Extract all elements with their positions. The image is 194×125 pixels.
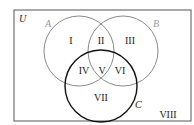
set-label-b: B — [153, 18, 159, 29]
set-label-a: A — [44, 18, 52, 29]
region-8-label: VIII — [159, 109, 176, 120]
region-3-label: III — [125, 35, 135, 46]
universe-label: U — [19, 13, 27, 24]
region-2-label: II — [98, 35, 105, 46]
region-6-label: VI — [115, 65, 126, 76]
region-5-label: V — [98, 65, 106, 76]
venn-diagram: U A B C I II III IV V VI VII VIII — [0, 0, 194, 125]
region-1-label: I — [69, 35, 72, 46]
region-7-label: VII — [94, 92, 108, 103]
set-label-c: C — [135, 99, 142, 110]
region-4-label: IV — [79, 65, 90, 76]
